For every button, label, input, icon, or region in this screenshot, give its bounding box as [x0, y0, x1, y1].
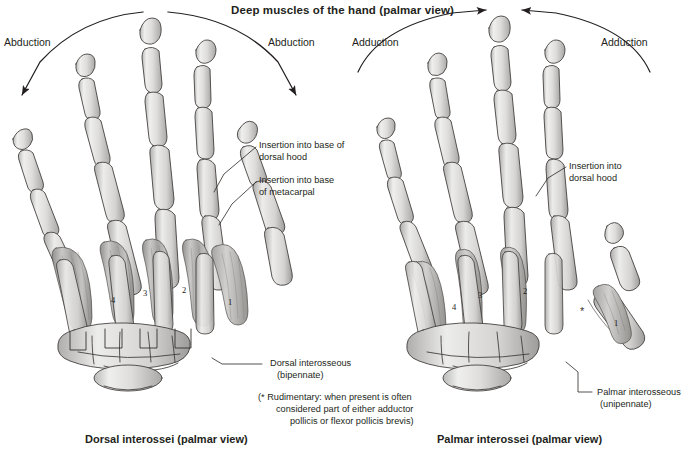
callout-palmar-interosseous-line1: Palmar interosseous [597, 387, 681, 399]
palmar-adduction-label-left: Adduction [352, 36, 399, 49]
callout-dorsal-interosseous-line2: (bipennate) [277, 370, 323, 382]
palmar-muscle-number-4: 4 [452, 302, 456, 312]
annotation-dorsal-hood-line2: dorsal hood [259, 152, 307, 164]
footnote-line1: (* Rudimentary: when present is often [258, 392, 412, 404]
palmar-adduction-label-right: Adduction [601, 36, 648, 49]
annotation-metacarpal-line2: of metacarpal [259, 187, 315, 199]
palmar-hand-illustration [377, 16, 645, 391]
callout-dorsal-interosseous-line1: Dorsal interosseous [270, 358, 351, 370]
rudimentary-asterisk-marker: * [580, 305, 584, 317]
footnote-line3: pollicis or flexor pollicis brevis) [290, 416, 414, 428]
caption-palmar-panel: Palmar interossei (palmar view) [437, 433, 602, 447]
dorsal-muscle-number-4: 4 [111, 295, 115, 305]
anatomy-illustration [0, 0, 687, 451]
dorsal-hand-illustration [13, 18, 292, 391]
footnote-line2: considered part of either adductor [276, 404, 413, 416]
dorsal-abduction-label-right: Abduction [268, 36, 315, 49]
palmar-muscle-number-1: 1 [614, 318, 618, 328]
annotation-metacarpal-line1: Insertion into base [259, 175, 334, 187]
dorsal-muscle-number-3: 3 [143, 288, 147, 298]
caption-dorsal-panel: Dorsal interossei (palmar view) [85, 433, 248, 447]
palmar-muscle-number-2: 2 [523, 286, 527, 296]
dorsal-muscle-number-1: 1 [228, 297, 232, 307]
annotation-dorsal-hood-line1: Insertion into base of [259, 140, 344, 152]
annotation-palmar-hood-line1: Insertion into [569, 161, 622, 173]
annotation-palmar-hood-line2: dorsal hood [569, 173, 617, 185]
figure-canvas: Deep muscles of the hand (palmar view) A… [0, 0, 687, 451]
callout-palmar-interosseous-line2: (unipennate) [600, 399, 652, 411]
dorsal-muscle-number-2: 2 [182, 285, 186, 295]
palmar-muscle-number-3: 3 [478, 290, 482, 300]
figure-title: Deep muscles of the hand (palmar view) [231, 3, 454, 17]
dorsal-abduction-label-left: Abduction [4, 36, 51, 49]
